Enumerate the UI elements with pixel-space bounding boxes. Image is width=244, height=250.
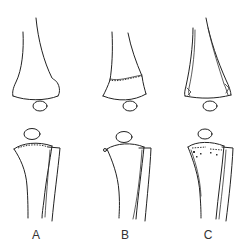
patella-b-lower (116, 132, 132, 143)
panel-c-tibia (188, 129, 233, 221)
patella-c (203, 101, 217, 111)
patella-c-lower (198, 129, 212, 139)
panel-label-b: B (115, 228, 135, 242)
panel-c-femur (185, 18, 231, 111)
panel-label-a: A (26, 228, 46, 242)
panel-label-c: C (198, 228, 218, 242)
bone-nodule (104, 149, 107, 152)
panel-a-tibia (14, 129, 60, 222)
panel-b-tibia (104, 132, 152, 222)
patella-a-lower (24, 129, 40, 140)
patella-a (33, 101, 47, 111)
diagram-figure (0, 0, 244, 250)
panel-b-femur (103, 32, 146, 111)
patella-b (123, 101, 137, 111)
panel-a-femur (13, 18, 60, 111)
